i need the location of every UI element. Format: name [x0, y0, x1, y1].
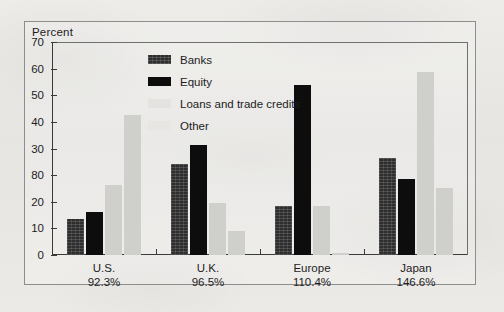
legend-item-loans: Loans and trade credits: [148, 95, 300, 112]
bar-loans: [209, 203, 226, 255]
legend-label-banks: Banks: [180, 54, 212, 66]
y-axis-tick-label: 80: [31, 169, 44, 181]
y-axis-tick-label: 30: [31, 143, 44, 155]
bar-other: [124, 115, 141, 255]
bar-equity: [398, 179, 415, 255]
bar-loans: [313, 206, 330, 255]
group-percent: 146.6%: [356, 275, 476, 289]
group-percent: 92.3%: [44, 275, 164, 289]
bar-other: [436, 188, 453, 255]
y-axis-tick-label: 70: [31, 36, 44, 48]
legend-item-equity: Equity: [148, 73, 300, 90]
group-percent: 96.5%: [148, 275, 268, 289]
y-axis-tick: [51, 255, 57, 256]
legend-swatch-loans: [148, 99, 171, 108]
x-axis-group-label: U.K.96.5%: [148, 261, 268, 289]
bar-banks: [275, 206, 292, 255]
bar-other: [332, 253, 349, 255]
legend-swatch-other: [148, 121, 171, 130]
bar-banks: [67, 219, 84, 256]
legend-swatch-banks: [148, 55, 171, 64]
group-name: U.S.: [44, 261, 164, 275]
y-axis-tick-label: 40: [31, 116, 44, 128]
bar-loans: [417, 72, 434, 255]
legend-item-banks: Banks: [148, 51, 300, 68]
y-axis-tick-label: 10: [31, 222, 44, 234]
y-axis-tick-label: 0: [38, 249, 44, 261]
bar-loans: [105, 185, 122, 255]
legend-label-loans: Loans and trade credits: [180, 98, 300, 110]
bar-banks: [171, 164, 188, 255]
legend-label-other: Other: [180, 120, 209, 132]
group-name: Japan: [356, 261, 476, 275]
x-axis-group-label: Japan146.6%: [356, 261, 476, 289]
bar-group: U.S.92.3%: [52, 42, 156, 255]
y-axis-tick-label: 50: [31, 89, 44, 101]
y-axis-tick-label: 60: [31, 63, 44, 75]
x-axis-group-label: Europe110.4%: [252, 261, 372, 289]
y-axis-tick-label: 20: [31, 196, 44, 208]
legend-swatch-equity: [148, 77, 171, 86]
bar-other: [228, 231, 245, 255]
group-name: U.K.: [148, 261, 268, 275]
chart-legend: Banks Equity Loans and trade credits Oth…: [148, 51, 300, 139]
bar-banks: [379, 158, 396, 255]
bar-group: Japan146.6%: [364, 42, 468, 255]
bar-equity: [190, 145, 207, 255]
x-axis-group-label: U.S.92.3%: [44, 261, 164, 289]
legend-item-other: Other: [148, 117, 300, 134]
legend-label-equity: Equity: [180, 76, 212, 88]
group-name: Europe: [252, 261, 372, 275]
group-percent: 110.4%: [252, 275, 372, 289]
bar-equity: [86, 212, 103, 255]
